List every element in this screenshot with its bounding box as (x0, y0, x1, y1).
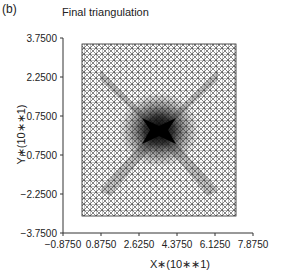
x-tick-label: 0.8750 (86, 239, 117, 250)
x-ticks: −0.8750 0.8750 2.6250 4.3750 6.1250 7.87… (45, 233, 269, 250)
y-tick-label: −3.7500 (21, 228, 58, 239)
x-tick-label: 7.8750 (238, 239, 269, 250)
x-tick-label: 6.1250 (200, 239, 231, 250)
y-tick-label: 0.7500 (26, 111, 57, 122)
chart-plot: 3.7500 2.2500 0.7500 −0.7500 −2.2500 −3.… (0, 0, 285, 277)
x-tick-label: 2.6250 (124, 239, 155, 250)
y-tick-label: 3.7500 (26, 33, 57, 44)
y-tick-label: 2.2500 (26, 72, 57, 83)
y-tick-label: −2.2500 (21, 189, 58, 200)
x-tick-label: 4.3750 (162, 239, 193, 250)
y-axis-label: Y∗(10∗∗1) (15, 100, 28, 170)
x-axis-label: X∗(10∗∗1) (150, 258, 210, 271)
triangulation-mesh (82, 44, 236, 216)
x-tick-label: −0.8750 (45, 239, 82, 250)
